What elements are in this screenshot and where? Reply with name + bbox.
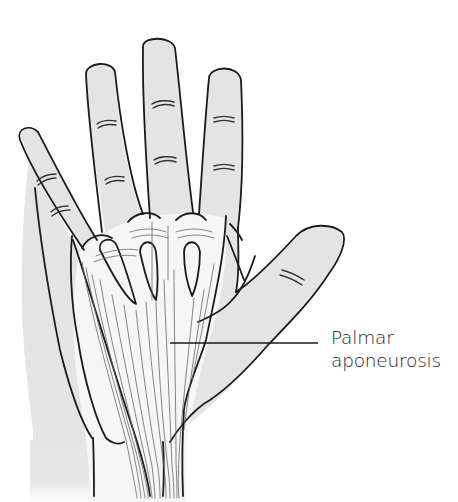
palmar-aponeurosis-shape bbox=[73, 214, 226, 502]
hand-anatomy-diagram: Palmar aponeurosis bbox=[0, 0, 458, 502]
label-line-2: aponeurosis bbox=[331, 349, 441, 372]
label-line-1: Palmar bbox=[331, 326, 441, 349]
label-palmar-aponeurosis: Palmar aponeurosis bbox=[331, 326, 441, 372]
hand-illustration bbox=[0, 0, 458, 502]
